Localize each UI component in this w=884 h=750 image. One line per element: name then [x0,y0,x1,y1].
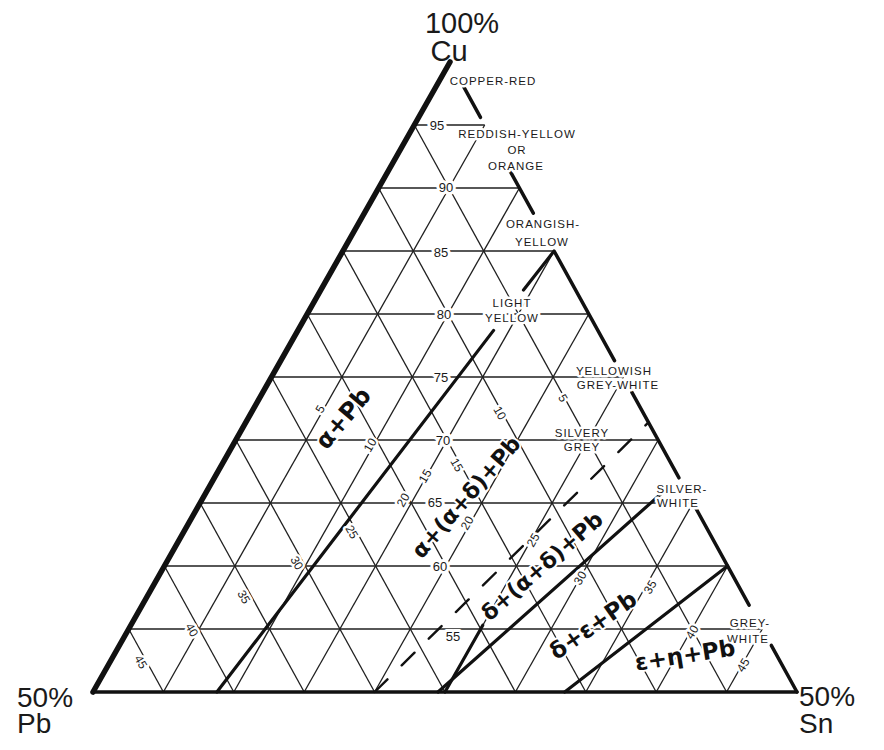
zone-copper-red: COPPER-RED [450,75,537,87]
cu-tick-80: 80 [437,307,451,322]
left-vertex-element: Pb [17,708,51,739]
zone-light-yellow-line2: YELLOW [485,312,539,324]
zone-silvery-grey-line1: SILVERY [555,427,610,439]
cu-tick-55: 55 [446,629,460,644]
zone-silver-white-line2: WHITE [657,497,699,509]
cu-tick-70: 70 [436,433,450,448]
cu-tick-75: 75 [434,370,448,385]
ternary-diagram: 100% Cu 50% Pb 50% Sn 95 90 85 80 75 70 … [0,0,884,750]
zone-light-yellow-line1: LIGHT [493,297,532,309]
zone-reddish-yellow-line1: REDDISH-YELLOW [458,128,576,140]
zone-orangish-yellow-line1: ORANGISH- [506,218,580,230]
cu-tick-95: 95 [430,118,444,133]
zone-grey-white-line1: GREY- [730,617,770,629]
zone-silver-white-line1: SILVER- [657,483,708,495]
zone-yellowish-grey-white-line2: GREY-WHITE [577,379,659,391]
cu-tick-90: 90 [439,180,453,195]
zone-silvery-grey-line2: GREY [564,441,601,453]
zone-reddish-yellow-line3: ORANGE [488,160,544,172]
cu-tick-85: 85 [434,245,448,260]
cu-tick-60: 60 [433,559,447,574]
zone-orangish-yellow-line2: YELLOW [515,236,569,248]
zone-yellowish-grey-white-line1: YELLOWISH [576,365,652,377]
right-vertex-element: Sn [799,708,833,739]
top-vertex-element: Cu [430,35,467,67]
zone-reddish-yellow-line2: OR [507,144,526,156]
